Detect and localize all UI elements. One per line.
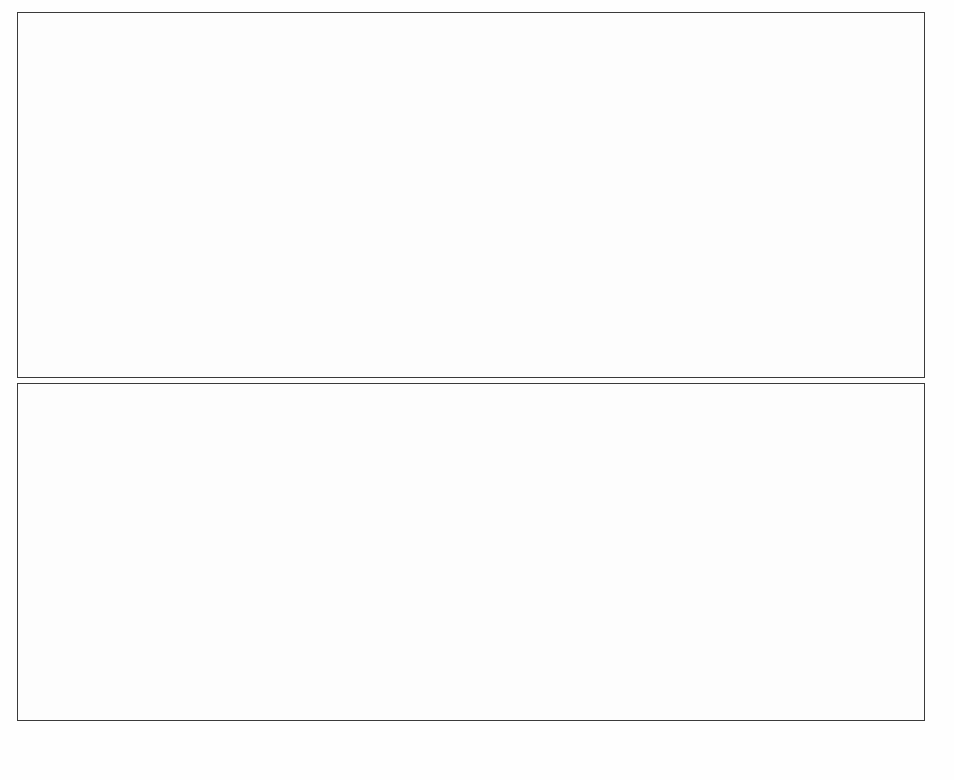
bottom-chart-svg — [18, 384, 924, 720]
top-chart-svg — [18, 13, 924, 377]
percentage-successful-trials-panel — [17, 12, 925, 378]
number-of-epochs-panel — [17, 383, 925, 721]
figure-root — [0, 0, 954, 780]
